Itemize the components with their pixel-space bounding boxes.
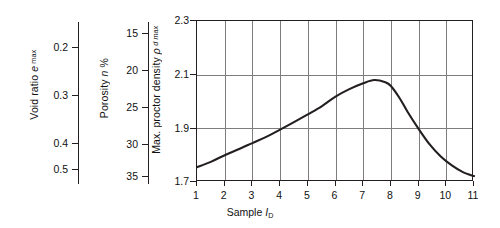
x-axis-label-text: Sample <box>227 206 266 218</box>
porosity-tick-4 <box>142 176 148 177</box>
figure-container: Void ratio emax 0.2 0.3 0.4 0.5 Porosity… <box>0 0 500 228</box>
porosity-tick-1 <box>142 70 148 71</box>
void-ratio-tick-0 <box>72 47 78 48</box>
void-ratio-ticklabel-1: 0.3 <box>42 90 68 101</box>
y-ticklabel-3: 1.7 <box>163 176 189 187</box>
void-ratio-tick-3 <box>72 169 78 170</box>
porosity-ticklabel-4: 35 <box>112 171 138 182</box>
void-ratio-axis-symbol: e <box>28 66 40 72</box>
x-tick-7 <box>390 181 391 186</box>
porosity-ticklabel-2: 25 <box>112 102 138 113</box>
void-ratio-ticklabel-0: 0.2 <box>42 42 68 53</box>
porosity-ticklabel-1: 20 <box>112 65 138 76</box>
void-ratio-tick-2 <box>72 143 78 144</box>
porosity-tick-3 <box>142 144 148 145</box>
void-ratio-ticklabel-2: 0.4 <box>42 138 68 149</box>
y-axis-label: Max. proctor density ρd max <box>150 28 162 154</box>
x-ticklabel-8: 9 <box>408 190 428 201</box>
x-ticklabel-6: 7 <box>352 190 372 201</box>
x-ticklabel-10: 11 <box>463 190 483 201</box>
x-ticklabel-0: 1 <box>186 190 206 201</box>
x-ticklabel-7: 8 <box>380 190 400 201</box>
porosity-tick-0 <box>142 33 148 34</box>
x-ticklabel-4: 5 <box>297 190 317 201</box>
x-tick-4 <box>307 181 308 186</box>
void-ratio-ticklabel-3: 0.5 <box>42 164 68 175</box>
porosity-axis-symbol: n <box>98 70 110 76</box>
x-tick-8 <box>418 181 419 186</box>
x-tick-3 <box>279 181 280 186</box>
x-tick-0 <box>196 181 197 186</box>
porosity-ticklabel-0: 15 <box>112 28 138 39</box>
x-ticklabel-1: 2 <box>214 190 234 201</box>
plot-area <box>196 20 473 181</box>
curve-path <box>197 80 474 176</box>
void-ratio-axis-line <box>78 22 79 184</box>
y-ticklabel-0: 2.3 <box>163 15 189 26</box>
x-ticklabel-2: 3 <box>241 190 261 201</box>
y-ticklabel-2: 1.9 <box>163 123 189 134</box>
x-ticklabel-3: 4 <box>269 190 289 201</box>
void-ratio-axis-label: Void ratio emax <box>28 52 40 120</box>
x-ticklabel-5: 6 <box>325 190 345 201</box>
y-axis-symbol: ρ <box>150 48 162 54</box>
x-tick-10 <box>473 181 474 186</box>
y-axis-subscript: d max <box>151 26 160 46</box>
x-tick-6 <box>362 181 363 186</box>
x-tick-9 <box>445 181 446 186</box>
porosity-axis-label-suffix: % <box>98 58 110 70</box>
porosity-axis-line <box>148 22 149 184</box>
void-ratio-axis-subscript: max <box>29 50 38 64</box>
x-tick-2 <box>251 181 252 186</box>
porosity-ticklabel-3: 30 <box>112 139 138 150</box>
void-ratio-axis-label-text: Void ratio <box>28 72 40 120</box>
void-ratio-tick-1 <box>72 95 78 96</box>
data-curve <box>197 21 474 182</box>
x-tick-5 <box>335 181 336 186</box>
y-ticklabel-1: 2.1 <box>163 69 189 80</box>
x-axis-label: Sample ID <box>0 206 500 218</box>
y-axis-label-text: Max. proctor density <box>150 54 162 154</box>
porosity-axis-label: Porosity n % <box>98 58 110 118</box>
porosity-axis-label-text: Porosity <box>98 76 110 118</box>
porosity-tick-2 <box>142 107 148 108</box>
x-tick-1 <box>224 181 225 186</box>
x-axis-subscript: D <box>268 211 273 220</box>
x-ticklabel-9: 10 <box>435 190 455 201</box>
